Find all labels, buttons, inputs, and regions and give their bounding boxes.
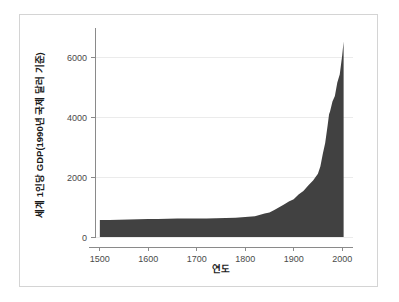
y-tick-labels: 0200040006000 xyxy=(67,53,87,243)
x-tick-label-1500: 1500 xyxy=(90,254,110,264)
y-tick-label-2000: 2000 xyxy=(67,173,87,183)
y-tick-label-4000: 4000 xyxy=(67,113,87,123)
x-tick-label-1900: 1900 xyxy=(284,254,304,264)
x-tick-label-2000: 2000 xyxy=(332,254,352,264)
x-tick-label-1700: 1700 xyxy=(187,254,207,264)
gdp-area-chart: 0200040006000 150016001700180019002000 연… xyxy=(0,0,399,302)
y-axis-title: 세계 1인당 GDP(1990년 국제 달러 기준) xyxy=(34,52,45,218)
x-tick-label-1800: 1800 xyxy=(235,254,255,264)
y-tick-label-6000: 6000 xyxy=(67,53,87,63)
chart-figure: 0200040006000 150016001700180019002000 연… xyxy=(0,0,399,302)
area-series-world-gdp-per-capita xyxy=(100,42,344,237)
area-fill xyxy=(100,42,344,237)
x-axis-title: 연도 xyxy=(212,263,230,274)
y-tick-label-0: 0 xyxy=(82,233,87,243)
x-tick-label-1600: 1600 xyxy=(138,254,158,264)
